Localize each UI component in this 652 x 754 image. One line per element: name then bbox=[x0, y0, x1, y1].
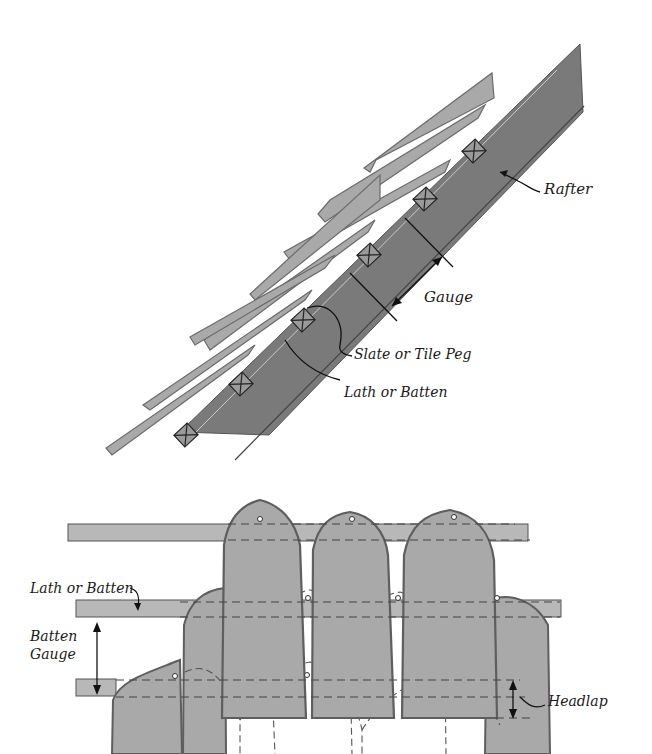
label-gauge: Gauge bbox=[424, 288, 473, 306]
side-section-diagram: Rafter Gauge Slate or Tile Peg Lath or B… bbox=[106, 44, 593, 460]
front-view-diagram: Lath or Batten Batten Gauge Headlap bbox=[29, 500, 608, 754]
label-headlap: Headlap bbox=[547, 693, 608, 709]
label-lath-front: Lath or Batten bbox=[29, 580, 134, 596]
label-peg: Slate or Tile Peg bbox=[354, 346, 471, 362]
label-rafter: Rafter bbox=[543, 180, 593, 198]
label-batten-gauge-1: Batten bbox=[29, 628, 77, 644]
label-lath: Lath or Batten bbox=[343, 384, 448, 400]
roof-slating-diagram: Rafter Gauge Slate or Tile Peg Lath or B… bbox=[0, 0, 652, 754]
label-batten-gauge-2: Gauge bbox=[30, 646, 76, 662]
slates-top-course bbox=[222, 500, 497, 718]
